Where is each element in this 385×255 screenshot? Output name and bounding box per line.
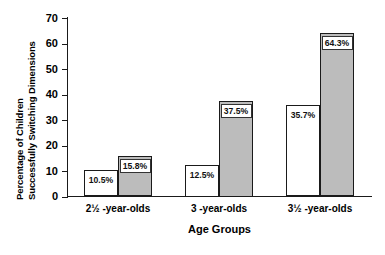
- bar-value-label: 64.3%: [322, 36, 353, 50]
- y-tick-label: 20: [36, 140, 58, 151]
- y-tick-label: 70: [36, 13, 58, 24]
- bar-value-label: 10.5%: [86, 173, 117, 187]
- bar-value-label: 12.5%: [187, 168, 218, 182]
- y-axis-title-line-1: Percentage of Children: [14, 98, 25, 200]
- y-tick-label: 10: [36, 166, 58, 177]
- bar-value-label: 35.7%: [288, 108, 319, 122]
- y-tick-label: 60: [36, 38, 58, 49]
- y-axis-line: [67, 17, 68, 198]
- y-tick-label: 0: [36, 191, 58, 202]
- bar-chart-figure: Percentage of Children Successfully Swit…: [0, 0, 385, 255]
- x-category-label-2: 3 -year-olds: [169, 203, 269, 214]
- y-tick-label: 30: [36, 115, 58, 126]
- y-tick-label: 50: [36, 64, 58, 75]
- y-tick-label: 40: [36, 89, 58, 100]
- x-axis-title: Age Groups: [67, 223, 372, 235]
- bar-filled-group-3: [320, 33, 354, 197]
- x-category-label-3: 3½ -year-olds: [270, 203, 370, 214]
- bar-value-label: 37.5%: [221, 104, 252, 118]
- x-category-label-1: 2½ -year-olds: [68, 203, 168, 214]
- y-axis-title: Percentage of Children Successfully Swit…: [0, 0, 40, 210]
- bar-value-label: 15.8%: [120, 159, 151, 173]
